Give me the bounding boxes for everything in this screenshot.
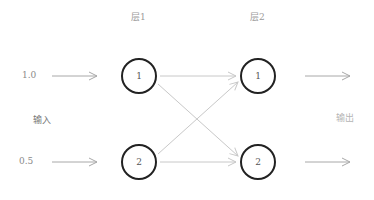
layer-1-node-2: 2 <box>121 144 157 180</box>
layer-1-label: 层1 <box>131 10 146 23</box>
input-label: 输入 <box>33 113 51 126</box>
node-label: 2 <box>255 157 261 167</box>
connection-l1n2-l2n1 <box>158 82 238 154</box>
neural-network-diagram <box>0 0 374 200</box>
input-value-1: 1.0 <box>22 70 36 80</box>
node-label: 2 <box>136 157 142 167</box>
layer-2-label: 层2 <box>250 10 265 23</box>
layer-2-node-1: 1 <box>240 58 276 94</box>
layer-2-node-2: 2 <box>240 144 276 180</box>
node-label: 1 <box>136 71 142 81</box>
output-label: 输出 <box>336 111 354 124</box>
connection-l1n1-l2n2 <box>158 84 238 156</box>
node-label: 1 <box>255 71 261 81</box>
layer-1-node-1: 1 <box>121 58 157 94</box>
input-value-2: 0.5 <box>19 156 33 166</box>
